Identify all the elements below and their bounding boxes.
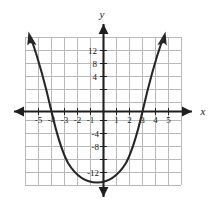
y-tick-label-4: 4 bbox=[93, 72, 98, 82]
y-tick-label-neg4: -4 bbox=[92, 129, 100, 139]
x-tick-label-1: 1 bbox=[114, 115, 119, 125]
figure-background bbox=[0, 0, 215, 208]
y-tick-label-12: 12 bbox=[88, 46, 97, 56]
y-axis-label: y bbox=[99, 8, 105, 20]
y-tick-label-neg8: -8 bbox=[92, 142, 100, 152]
parabola-graph-figure: -5 -4 -3 -2 -1 1 2 3 4 5 12 8 4 -4 -8 -1… bbox=[0, 0, 215, 208]
x-tick-label-neg2: -2 bbox=[74, 115, 82, 125]
x-tick-label-neg3: -3 bbox=[61, 115, 69, 125]
y-tick-label-8: 8 bbox=[93, 59, 98, 69]
x-axis-label: x bbox=[200, 105, 206, 117]
x-tick-label-5: 5 bbox=[166, 115, 171, 125]
x-tick-label-4: 4 bbox=[153, 115, 158, 125]
x-tick-label-neg5: -5 bbox=[35, 115, 43, 125]
x-tick-label-2: 2 bbox=[127, 115, 132, 125]
y-tick-label-neg12: -12 bbox=[87, 168, 99, 178]
x-tick-label-neg1: -1 bbox=[87, 115, 95, 125]
